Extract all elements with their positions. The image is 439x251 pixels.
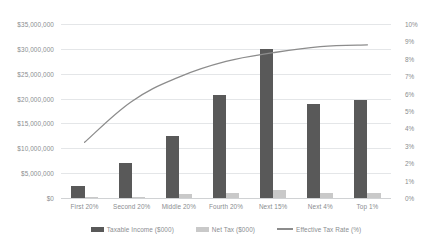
legend-label: Net Tax ($000) — [212, 226, 255, 233]
y-axis-left-tick: $35,000,000 — [17, 21, 54, 28]
y-axis-left-tick: $10,000,000 — [17, 145, 54, 152]
x-axis-tick-label: Second 20% — [113, 203, 150, 210]
y-axis-left-tick: $15,000,000 — [17, 120, 54, 127]
legend-line-swatch-icon — [277, 228, 293, 229]
y-axis-left-tick: $30,000,000 — [17, 45, 54, 52]
x-axis-tick-label: Fourth 20% — [209, 203, 243, 210]
y-axis-right-tick: 4% — [405, 125, 414, 132]
x-axis-tick-label: Top 1% — [356, 203, 378, 210]
y-axis-left: $35,000,000$30,000,000$25,000,000$20,000… — [0, 24, 58, 198]
effective-tax-rate-line — [85, 45, 368, 142]
x-axis: First 20%Second 20%Middle 20%Fourth 20%N… — [61, 200, 391, 216]
y-axis-right-tick: 9% — [405, 38, 414, 45]
x-axis-tick-label: Next 15% — [259, 203, 288, 210]
x-axis-tick-label: First 20% — [71, 203, 99, 210]
x-axis-tick-label: Next 4% — [308, 203, 333, 210]
y-axis-right-tick: 1% — [405, 177, 414, 184]
legend-label: Effective Tax Rate (%) — [296, 226, 361, 233]
y-axis-left-tick: $25,000,000 — [17, 70, 54, 77]
y-axis-right-tick: 0% — [405, 195, 414, 202]
legend-entry[interactable]: Effective Tax Rate (%) — [277, 226, 361, 233]
legend-entry[interactable]: Taxable Income ($000) — [91, 226, 174, 233]
y-axis-right-tick: 5% — [405, 108, 414, 115]
chart-legend: Taxable Income ($000)Net Tax ($000)Effec… — [61, 222, 391, 236]
y-axis-right-tick: 2% — [405, 160, 414, 167]
chart-container: $35,000,000$30,000,000$25,000,000$20,000… — [0, 0, 439, 251]
legend-box-swatch-icon — [196, 227, 209, 232]
y-axis-right-tick: 6% — [405, 90, 414, 97]
axis-baseline — [61, 198, 391, 199]
legend-entry[interactable]: Net Tax ($000) — [196, 226, 255, 233]
y-axis-right-tick: 3% — [405, 142, 414, 149]
y-axis-left-tick: $5,000,000 — [21, 170, 54, 177]
y-axis-left-tick: $20,000,000 — [17, 95, 54, 102]
legend-label: Taxable Income ($000) — [107, 226, 174, 233]
legend-box-swatch-icon — [91, 227, 104, 232]
effective-tax-rate-line-layer — [61, 24, 391, 198]
x-axis-tick-label: Middle 20% — [162, 203, 196, 210]
plot-area — [61, 24, 391, 198]
y-axis-right-tick: 10% — [405, 21, 418, 28]
y-axis-left-tick: $0 — [47, 195, 54, 202]
y-axis-right-tick: 7% — [405, 73, 414, 80]
y-axis-right-tick: 8% — [405, 55, 414, 62]
y-axis-right: 10%9%8%7%6%5%4%3%2%1%0% — [393, 24, 437, 198]
